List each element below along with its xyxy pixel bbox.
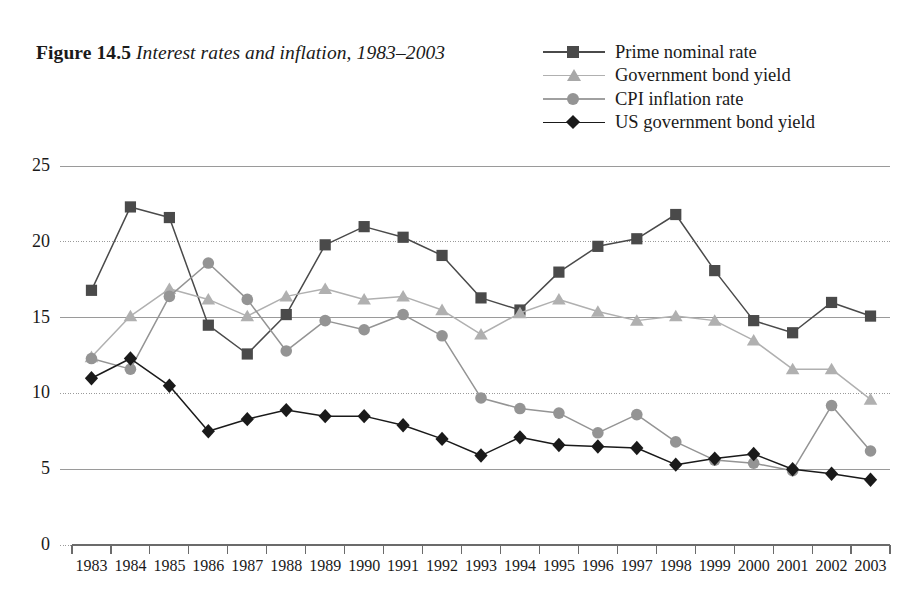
square-marker-icon <box>787 327 798 338</box>
circle-marker-icon <box>358 324 370 336</box>
diamond-marker-icon <box>124 351 137 365</box>
chart-plot-area: 0510152025 19831984198519861987198819891… <box>0 0 917 601</box>
square-marker-icon <box>436 250 447 261</box>
y-tick-label-5: 5 <box>16 458 50 479</box>
triangle-marker-icon <box>669 310 683 322</box>
square-marker-icon <box>592 241 603 252</box>
square-marker-icon <box>203 320 214 331</box>
circle-marker-icon <box>319 315 331 327</box>
circle-marker-icon <box>631 409 643 421</box>
circle-marker-icon <box>241 294 253 306</box>
diamond-marker-icon <box>241 412 254 426</box>
square-marker-icon <box>397 232 408 243</box>
square-marker-icon <box>475 292 486 303</box>
y-tick-label-10: 10 <box>16 382 50 403</box>
diamond-marker-icon <box>85 371 98 385</box>
diamond-marker-icon <box>747 447 760 461</box>
circle-marker-icon <box>553 407 565 419</box>
diamond-marker-icon <box>591 439 604 453</box>
series-us-government-bond-yield <box>85 351 877 487</box>
triangle-marker-icon <box>591 305 605 317</box>
triangle-marker-icon <box>124 310 138 322</box>
circle-marker-icon <box>203 257 215 269</box>
square-marker-icon <box>242 348 253 359</box>
circle-marker-icon <box>436 330 448 342</box>
diamond-marker-icon <box>552 438 565 452</box>
square-marker-icon <box>826 297 837 308</box>
x-tick-label-2003: 2003 <box>847 557 895 575</box>
circle-marker-icon <box>475 392 487 404</box>
triangle-marker-icon <box>435 304 449 316</box>
series-cpi-inflation-rate <box>86 257 877 476</box>
square-marker-icon <box>670 209 681 220</box>
triangle-marker-icon <box>747 334 761 346</box>
circle-marker-icon <box>826 400 838 412</box>
y-tick-label-20: 20 <box>16 231 50 252</box>
square-marker-icon <box>125 201 136 212</box>
diamond-marker-icon <box>358 409 371 423</box>
square-marker-icon <box>865 310 876 321</box>
triangle-marker-icon <box>396 290 410 302</box>
chart-svg <box>0 0 917 601</box>
square-marker-icon <box>359 221 370 232</box>
circle-marker-icon <box>86 353 98 365</box>
square-marker-icon <box>709 265 720 276</box>
diamond-marker-icon <box>435 432 448 446</box>
square-marker-icon <box>281 309 292 320</box>
circle-marker-icon <box>164 291 176 303</box>
figure-container: Figure 14.5Interest rates and inflation,… <box>0 0 917 601</box>
diamond-marker-icon <box>708 451 721 465</box>
triangle-marker-icon <box>552 293 566 305</box>
square-marker-icon <box>164 212 175 223</box>
square-marker-icon <box>748 315 759 326</box>
square-marker-icon <box>553 267 564 278</box>
circle-marker-icon <box>397 309 409 321</box>
circle-marker-icon <box>280 345 292 357</box>
y-tick-label-25: 25 <box>16 155 50 176</box>
square-marker-icon <box>86 285 97 296</box>
triangle-marker-icon <box>864 393 878 405</box>
diamond-marker-icon <box>630 441 643 455</box>
y-tick-label-15: 15 <box>16 307 50 328</box>
square-marker-icon <box>320 239 331 250</box>
triangle-marker-icon <box>240 310 254 322</box>
square-marker-icon <box>631 233 642 244</box>
diamond-marker-icon <box>474 448 487 462</box>
diamond-marker-icon <box>513 430 526 444</box>
triangle-marker-icon <box>318 282 332 294</box>
diamond-marker-icon <box>396 418 409 432</box>
circle-marker-icon <box>514 403 526 415</box>
circle-marker-icon <box>592 427 604 439</box>
circle-marker-icon <box>670 436 682 448</box>
circle-marker-icon <box>865 445 877 457</box>
y-tick-label-0: 0 <box>16 534 50 555</box>
triangle-marker-icon <box>474 328 488 340</box>
diamond-marker-icon <box>864 473 877 487</box>
diamond-marker-icon <box>319 409 332 423</box>
diamond-marker-icon <box>280 403 293 417</box>
